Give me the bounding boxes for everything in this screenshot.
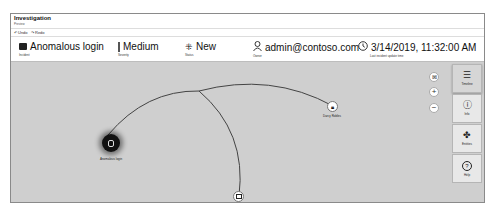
info-button[interactable]: ⓘ Info [452,94,482,123]
incident-field: Anomalous login Incident [19,41,104,57]
incident-label: Incident [19,53,104,57]
owner-field: admin@contoso.com Owner [253,41,359,58]
zoom-in-button[interactable]: + [429,87,439,97]
investigation-graph-canvas[interactable]: Anomalous login 🔒︎ Darcy Robles eESDlabs… [11,61,484,203]
computer-icon [236,194,242,199]
node-label-account: Darcy Robles [323,114,341,118]
owner-label: Owner [253,54,359,58]
entities-label: Entities [462,142,472,146]
investigation-window: Investigation Preview ↶ Undo ↷ Redo Anom… [10,13,485,203]
title-bar: Investigation Preview [11,14,484,28]
incident-info-bar: Anomalous login Incident Medium Severity… [11,37,484,61]
fit-to-screen-button[interactable]: ⊠ [429,72,439,82]
severity-field: Medium Severity [118,41,159,57]
redo-label: Redo [35,30,45,35]
timeline-label: Timeline [461,82,472,86]
undo-button[interactable]: ↶ Undo [14,30,28,35]
sparkle-icon: ⁜ [185,42,193,52]
clock-icon [358,41,368,53]
updated-label: Last incident update time [370,54,476,58]
help-button[interactable]: ? Help [452,154,482,183]
updated-field: 3/14/2019, 11:32:00 AM Last incident upd… [358,41,476,58]
lock-icon: 🔒︎ [331,104,334,110]
redo-icon: ↷ [31,30,34,35]
graph-node-account[interactable]: 🔒︎ [327,101,338,112]
entities-button[interactable]: ✤ Entities [452,124,482,153]
window-subtitle: Preview [14,22,25,26]
help-icon: ? [462,161,472,171]
status-label: Status [185,53,216,57]
undo-label: Undo [18,30,28,35]
briefcase-icon [19,43,27,50]
incident-name: Anomalous login [30,41,104,52]
person-icon [253,41,262,53]
severity-value: Medium [123,41,159,52]
updated-value: 3/14/2019, 11:32:00 AM [371,42,476,53]
graph-node-alert[interactable] [102,134,120,152]
info-icon: ⓘ [463,101,472,110]
node-label-alert: Anomalous login [100,157,122,161]
window-title: Investigation [14,15,51,21]
status-value: New [196,41,216,52]
timeline-icon: ☰ [463,71,471,80]
zoom-out-button[interactable]: − [429,103,439,113]
severity-label: Severity [118,53,159,57]
timeline-button[interactable]: ☰ Timeline [452,64,482,93]
info-label: Info [464,112,469,116]
graph-node-host[interactable] [233,191,244,202]
alert-icon [108,140,114,147]
undo-icon: ↶ [14,30,17,35]
status-field: ⁜ New Status [185,41,216,57]
graph-edges [11,62,485,203]
side-panel: ☰ Timeline ⓘ Info ✤ Entities ? Help [452,64,482,184]
redo-button[interactable]: ↷ Redo [31,30,45,35]
severity-bar-icon [118,42,120,52]
help-label: Help [464,173,470,177]
owner-value: admin@contoso.com [265,42,359,53]
entities-icon: ✤ [463,131,471,140]
toolbar: ↶ Undo ↷ Redo [11,28,484,37]
